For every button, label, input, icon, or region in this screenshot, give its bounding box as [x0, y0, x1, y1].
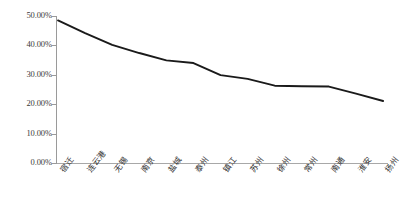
y-axis-tick-label: 30.00%	[4, 69, 52, 79]
series-line-group	[57, 16, 387, 163]
y-axis-tick-label: 50.00%	[4, 10, 52, 20]
y-axis-tick	[52, 16, 57, 17]
y-axis-labels: 0.00%10.00%20.00%30.00%40.00%50.00%	[0, 0, 52, 211]
y-axis-tick-label: 10.00%	[4, 128, 52, 138]
y-axis-tick	[52, 134, 57, 135]
x-axis-labels: 宿迁连云港无锡南京盐城泰州镇江苏州徐州常州南通淮安扬州	[57, 163, 387, 211]
y-axis-tick	[52, 104, 57, 105]
y-axis-tick-label: 40.00%	[4, 39, 52, 49]
plot-area	[57, 16, 387, 163]
y-axis-tick-label: 0.00%	[4, 157, 52, 167]
series-line	[58, 20, 383, 101]
y-axis-tick	[52, 45, 57, 46]
y-axis-tick-label: 20.00%	[4, 98, 52, 108]
y-axis-tick	[52, 75, 57, 76]
y-axis-tick	[52, 163, 57, 164]
